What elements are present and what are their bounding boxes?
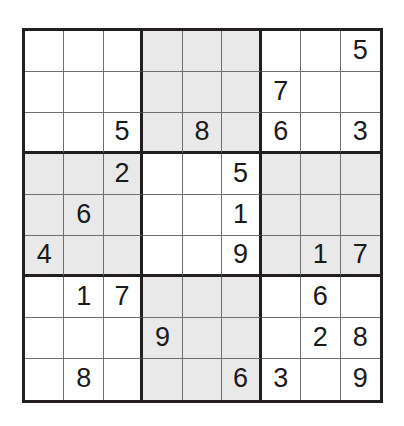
sudoku-cell-r8c9[interactable]: 8 [341, 318, 380, 359]
sudoku-cell-r8c6[interactable] [222, 318, 261, 359]
sudoku-cell-r7c2[interactable]: 1 [64, 277, 103, 318]
sudoku-cell-value: 2 [115, 160, 130, 187]
sudoku-cell-r9c7[interactable]: 3 [262, 359, 301, 400]
sudoku-cell-r2c6[interactable] [222, 72, 261, 113]
sudoku-cell-value: 7 [353, 241, 368, 268]
sudoku-cell-r4c9[interactable] [341, 154, 380, 195]
sudoku-cell-r4c6[interactable]: 5 [222, 154, 261, 195]
sudoku-cell-r5c3[interactable] [104, 195, 143, 236]
sudoku-cell-value: 9 [353, 365, 368, 392]
sudoku-cell-r1c9[interactable]: 5 [341, 31, 380, 72]
sudoku-cell-value: 2 [313, 324, 328, 351]
sudoku-cell-r4c5[interactable] [183, 154, 222, 195]
sudoku-cell-value: 8 [353, 324, 368, 351]
sudoku-cell-r3c5[interactable]: 8 [183, 113, 222, 154]
sudoku-cell-r1c2[interactable] [64, 31, 103, 72]
sudoku-cell-r7c9[interactable] [341, 277, 380, 318]
sudoku-cell-r8c8[interactable]: 2 [301, 318, 340, 359]
sudoku-cell-r3c1[interactable] [25, 113, 64, 154]
sudoku-cell-r6c4[interactable] [143, 236, 182, 277]
sudoku-cell-value: 1 [313, 241, 328, 268]
sudoku-cell-r2c7[interactable]: 7 [262, 72, 301, 113]
sudoku-cell-r9c2[interactable]: 8 [64, 359, 103, 400]
sudoku-cell-r3c9[interactable]: 3 [341, 113, 380, 154]
sudoku-cell-r1c5[interactable] [183, 31, 222, 72]
sudoku-cell-r7c1[interactable] [25, 277, 64, 318]
sudoku-cell-r1c6[interactable] [222, 31, 261, 72]
sudoku-cell-r7c5[interactable] [183, 277, 222, 318]
sudoku-cell-r8c5[interactable] [183, 318, 222, 359]
sudoku-cell-r4c2[interactable] [64, 154, 103, 195]
sudoku-cell-value: 6 [76, 201, 91, 228]
sudoku-cell-r6c7[interactable] [262, 236, 301, 277]
sudoku-cell-value: 4 [37, 241, 52, 268]
sudoku-cell-r8c4[interactable]: 9 [143, 318, 182, 359]
sudoku-cell-r3c4[interactable] [143, 113, 182, 154]
sudoku-cell-r8c3[interactable] [104, 318, 143, 359]
sudoku-cell-value: 1 [76, 283, 91, 310]
sudoku-cell-r8c7[interactable] [262, 318, 301, 359]
sudoku-cell-r1c7[interactable] [262, 31, 301, 72]
sudoku-cell-r9c5[interactable] [183, 359, 222, 400]
sudoku-cell-r6c9[interactable]: 7 [341, 236, 380, 277]
sudoku-cell-r3c3[interactable]: 5 [104, 113, 143, 154]
sudoku-cell-r9c4[interactable] [143, 359, 182, 400]
sudoku-cell-r6c6[interactable]: 9 [222, 236, 261, 277]
sudoku-cell-r6c2[interactable] [64, 236, 103, 277]
sudoku-cell-r4c1[interactable] [25, 154, 64, 195]
sudoku-cell-r8c1[interactable] [25, 318, 64, 359]
sudoku-cell-r6c8[interactable]: 1 [301, 236, 340, 277]
sudoku-cell-r6c3[interactable] [104, 236, 143, 277]
sudoku-cell-r4c8[interactable] [301, 154, 340, 195]
sudoku-cell-r7c7[interactable] [262, 277, 301, 318]
sudoku-cell-r1c8[interactable] [301, 31, 340, 72]
sudoku-cell-r3c8[interactable] [301, 113, 340, 154]
sudoku-cell-r5c4[interactable] [143, 195, 182, 236]
sudoku-cell-r5c2[interactable]: 6 [64, 195, 103, 236]
sudoku-cell-r1c3[interactable] [104, 31, 143, 72]
sudoku-cell-r2c2[interactable] [64, 72, 103, 113]
sudoku-cell-r7c8[interactable]: 6 [301, 277, 340, 318]
sudoku-cell-r5c5[interactable] [183, 195, 222, 236]
sudoku-cell-r2c1[interactable] [25, 72, 64, 113]
sudoku-cell-value: 3 [353, 118, 368, 145]
sudoku-cell-r3c7[interactable]: 6 [262, 113, 301, 154]
sudoku-cell-r9c6[interactable]: 6 [222, 359, 261, 400]
sudoku-cell-value: 5 [233, 160, 248, 187]
sudoku-cell-r2c5[interactable] [183, 72, 222, 113]
sudoku-cell-r7c6[interactable] [222, 277, 261, 318]
sudoku-cell-r1c1[interactable] [25, 31, 64, 72]
sudoku-cell-r5c1[interactable] [25, 195, 64, 236]
sudoku-cell-r9c3[interactable] [104, 359, 143, 400]
sudoku-cell-r1c4[interactable] [143, 31, 182, 72]
sudoku-cell-r8c2[interactable] [64, 318, 103, 359]
sudoku-cell-r2c9[interactable] [341, 72, 380, 113]
sudoku-cell-value: 3 [273, 365, 288, 392]
sudoku-cell-r2c3[interactable] [104, 72, 143, 113]
sudoku-cell-r7c3[interactable]: 7 [104, 277, 143, 318]
sudoku-cell-r4c3[interactable]: 2 [104, 154, 143, 195]
sudoku-cell-r5c8[interactable] [301, 195, 340, 236]
sudoku-cell-value: 6 [273, 118, 288, 145]
sudoku-cell-r3c2[interactable] [64, 113, 103, 154]
sudoku-cell-value: 9 [233, 241, 248, 268]
sudoku-cell-value: 6 [313, 283, 328, 310]
sudoku-cell-r5c6[interactable]: 1 [222, 195, 261, 236]
sudoku-cell-value: 1 [233, 201, 248, 228]
sudoku-cell-r9c9[interactable]: 9 [341, 359, 380, 400]
sudoku-cell-r4c4[interactable] [143, 154, 182, 195]
sudoku-cell-r6c5[interactable] [183, 236, 222, 277]
sudoku-cell-r3c6[interactable] [222, 113, 261, 154]
sudoku-cell-r7c4[interactable] [143, 277, 182, 318]
sudoku-cell-r5c7[interactable] [262, 195, 301, 236]
sudoku-cell-r9c1[interactable] [25, 359, 64, 400]
sudoku-cell-r9c8[interactable] [301, 359, 340, 400]
sudoku-cell-r4c7[interactable] [262, 154, 301, 195]
sudoku-grid[interactable]: 575863256149171769288639 [22, 28, 383, 403]
sudoku-cell-r6c1[interactable]: 4 [25, 236, 64, 277]
sudoku-cell-r2c8[interactable] [301, 72, 340, 113]
sudoku-cell-value: 7 [273, 78, 288, 105]
sudoku-cell-r2c4[interactable] [143, 72, 182, 113]
sudoku-cell-value: 7 [115, 283, 130, 310]
sudoku-cell-r5c9[interactable] [341, 195, 380, 236]
